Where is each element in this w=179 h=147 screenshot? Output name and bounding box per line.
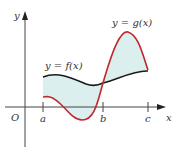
- f-curve-label: y = f(x): [44, 60, 83, 71]
- tick-c-label: c: [145, 113, 151, 124]
- diagram-canvas: y x O a b c y = f(x) y = g(x): [0, 0, 179, 147]
- tick-b-label: b: [100, 113, 106, 124]
- area-between-curves-figure: y x O a b c y = f(x) y = g(x): [0, 0, 179, 147]
- origin-label: O: [11, 112, 19, 123]
- x-axis-arrow-icon: [157, 104, 166, 110]
- y-axis-arrow-icon: [22, 11, 28, 20]
- tick-a-label: a: [40, 113, 46, 124]
- y-axis-label: y: [13, 10, 20, 21]
- g-curve-label: y = g(x): [111, 17, 152, 28]
- x-axis-label: x: [166, 112, 172, 123]
